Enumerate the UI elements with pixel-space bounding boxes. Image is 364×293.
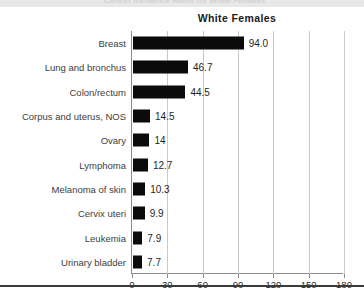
- bar-value-label: 14: [154, 135, 165, 146]
- bar: [133, 231, 142, 244]
- axis-tick: [273, 274, 274, 278]
- bar: [133, 207, 145, 220]
- bar: [133, 158, 148, 171]
- bar-row: Ovary14: [132, 128, 344, 152]
- axis-tick: [132, 274, 133, 278]
- bar-row: Lymphoma12.7: [132, 153, 344, 177]
- axis-tick: [167, 274, 168, 278]
- axis-tick: [203, 274, 204, 278]
- bar-value-label: 46.7: [193, 62, 212, 73]
- bar-row: Melanoma of skin10.3: [132, 177, 344, 201]
- bar-value-label: 7.7: [147, 256, 161, 267]
- gridline: [344, 31, 345, 274]
- axis-tick: [309, 274, 310, 278]
- bar-row: Colon/rectum44.5: [132, 80, 344, 104]
- category-label: Cervix uteri: [78, 208, 126, 219]
- bar-value-label: 7.9: [147, 232, 161, 243]
- bar-row: Breast94.0: [132, 31, 344, 55]
- axis-tick: [344, 274, 345, 278]
- bar: [133, 61, 188, 74]
- category-label: Corpus and uterus, NOS: [22, 111, 126, 122]
- bar-row: Cervix uteri9.9: [132, 201, 344, 225]
- bar: [133, 85, 185, 98]
- category-label: Leukemia: [85, 232, 126, 243]
- bar: [133, 37, 244, 50]
- bar-row: Corpus and uterus, NOS14.5: [132, 104, 344, 128]
- bar-row: Lung and bronchus46.7: [132, 55, 344, 79]
- chart-title: White Females: [131, 12, 343, 24]
- bar: [133, 255, 142, 268]
- bar-value-label: 12.7: [153, 159, 172, 170]
- bar-value-label: 9.9: [150, 208, 164, 219]
- axis-tick: [238, 274, 239, 278]
- bar-value-label: 94.0: [249, 38, 268, 49]
- cropped-header-strip: Cancer Incidence Rates for White Females: [0, 0, 364, 7]
- plot-area: 0306090120150180 Breast94.0Lung and bron…: [131, 31, 343, 274]
- figure-bottom-rule: [0, 285, 364, 287]
- category-label: Urinary bladder: [61, 256, 126, 267]
- category-label: Melanoma of skin: [52, 183, 126, 194]
- cropped-header-text: Cancer Incidence Rates for White Females: [104, 0, 265, 5]
- bar-row: Urinary bladder7.7: [132, 250, 344, 274]
- bar: [133, 182, 145, 195]
- bar-row: Leukemia7.9: [132, 225, 344, 249]
- category-label: Colon/rectum: [70, 86, 127, 97]
- bar-value-label: 10.3: [150, 183, 169, 194]
- bar-value-label: 14.5: [155, 111, 174, 122]
- category-label: Breast: [99, 38, 126, 49]
- bar: [133, 134, 149, 147]
- chart-figure: White Females 0306090120150180 Breast94.…: [0, 7, 364, 286]
- category-label: Lung and bronchus: [45, 62, 126, 73]
- category-label: Lymphoma: [79, 159, 126, 170]
- bar: [133, 110, 150, 123]
- bar-value-label: 44.5: [190, 86, 209, 97]
- category-label: Ovary: [101, 135, 126, 146]
